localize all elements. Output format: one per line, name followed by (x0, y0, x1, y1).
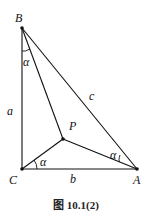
angle-label-a: α (110, 148, 117, 162)
angle-label-c: α (40, 155, 47, 169)
geometry-diagram: B C A P a b c α α α 图 10.1(2) (0, 0, 153, 220)
label-side-c: c (89, 89, 95, 103)
angle-label-b: α (23, 55, 30, 69)
segment-ap (63, 139, 137, 169)
label-c: C (9, 173, 18, 187)
side-ba (22, 28, 137, 169)
label-a: A (132, 173, 141, 187)
point-c (20, 167, 24, 171)
point-a (135, 167, 139, 171)
segment-bp (22, 28, 63, 139)
label-b: B (15, 11, 23, 25)
point-p (61, 137, 65, 141)
angle-arc-b (22, 49, 30, 51)
point-b (20, 26, 24, 30)
angle-arc-a (119, 155, 120, 162)
label-side-b: b (70, 172, 76, 186)
label-p: P (68, 119, 77, 133)
angle-arc-c (34, 160, 37, 169)
label-side-a: a (7, 104, 13, 118)
figure-caption: 图 10.1(2) (53, 199, 99, 212)
